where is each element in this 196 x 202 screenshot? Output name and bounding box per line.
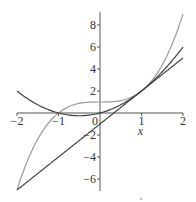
y-tick-label: −6 bbox=[83, 172, 96, 186]
y-tick-label: 4 bbox=[90, 62, 96, 76]
y-tick-label: 8 bbox=[90, 18, 96, 32]
y-tick-label: −2 bbox=[83, 128, 96, 142]
y-tick-label: −4 bbox=[83, 150, 96, 164]
x-tick-label: 2 bbox=[180, 114, 186, 128]
x-axis-label: x bbox=[137, 124, 144, 138]
x-tick-label: −1 bbox=[52, 114, 65, 128]
x-tick-label: −2 bbox=[11, 114, 24, 128]
function-plot: −2−1012−6−4−22468x bbox=[0, 0, 196, 202]
x-tick-label: 0 bbox=[92, 114, 98, 128]
artifact-speck bbox=[140, 198, 142, 200]
y-tick-label: 6 bbox=[90, 40, 96, 54]
y-tick-label: 2 bbox=[90, 84, 96, 98]
